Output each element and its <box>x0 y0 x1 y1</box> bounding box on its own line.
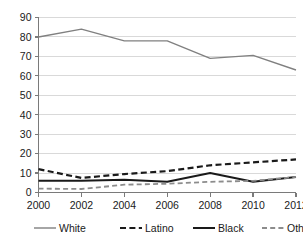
x-tick-label: 2012 <box>284 199 303 211</box>
x-axis-tick-labels: 2000200220042006200820102012 <box>27 199 303 211</box>
x-tick-label: 2008 <box>198 199 222 211</box>
y-tick-label: 50 <box>20 89 32 101</box>
legend-label-black: Black <box>218 222 244 234</box>
x-tick-label: 2006 <box>156 199 180 211</box>
y-tick-label: 40 <box>20 109 32 121</box>
legend-label-other: Other <box>287 222 303 234</box>
x-axis-ticks <box>39 193 297 197</box>
series-line-white <box>39 29 297 70</box>
y-tick-label: 60 <box>20 70 32 82</box>
series-line-other <box>39 177 297 189</box>
x-tick-label: 2002 <box>70 199 94 211</box>
chart-canvas: 0102030405060708090 20002002200420062008… <box>0 0 303 242</box>
y-tick-label: 70 <box>20 50 32 62</box>
y-axis-tick-labels: 0102030405060708090 <box>20 11 32 198</box>
series-lines <box>39 29 297 189</box>
line-chart: 0102030405060708090 20002002200420062008… <box>0 0 303 242</box>
y-tick-label: 20 <box>20 147 32 159</box>
x-tick-label: 2010 <box>241 199 265 211</box>
legend-label-white: White <box>59 222 86 234</box>
gridlines <box>39 18 297 193</box>
x-tick-label: 2000 <box>27 199 51 211</box>
series-line-latino <box>39 159 297 177</box>
x-tick-label: 2004 <box>113 199 137 211</box>
legend-label-latino: Latino <box>145 222 174 234</box>
chart-legend: WhiteLatinoBlackOther <box>34 222 303 234</box>
y-tick-label: 80 <box>20 31 32 43</box>
y-tick-label: 30 <box>20 128 32 140</box>
y-tick-label: 0 <box>26 186 32 198</box>
y-tick-label: 10 <box>20 167 32 179</box>
y-tick-label: 90 <box>20 11 32 23</box>
